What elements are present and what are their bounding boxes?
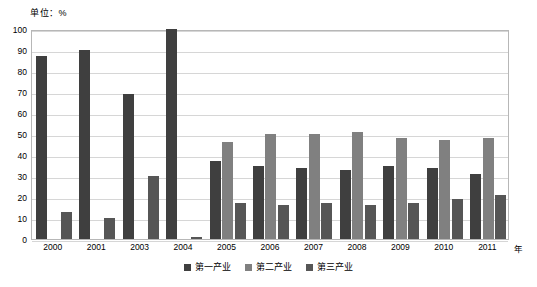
y-axis-tick-label: 10 — [18, 215, 27, 223]
y-axis-tick-label: 20 — [18, 194, 27, 202]
bar — [210, 161, 221, 239]
legend: 第一产业第二产业第三产业 — [0, 263, 537, 272]
bar — [123, 94, 134, 239]
bar — [79, 50, 90, 239]
x-axis-tick-label: 2010 — [434, 242, 453, 252]
x-axis-tick-label: 2000 — [43, 242, 62, 252]
plot-area — [31, 30, 509, 240]
bar — [408, 203, 419, 239]
bar — [104, 218, 115, 239]
bar — [439, 140, 450, 239]
bar-group — [249, 31, 292, 239]
bar — [191, 237, 202, 239]
y-axis-tick-label: 60 — [18, 110, 27, 118]
y-axis-labels: 0102030405060708090100 — [0, 30, 31, 240]
legend-label: 第三产业 — [317, 263, 353, 272]
x-axis-tick-label: 2008 — [347, 242, 366, 252]
y-axis-tick-label: 50 — [18, 131, 27, 139]
bar-group — [293, 31, 336, 239]
legend-swatch-icon — [245, 264, 252, 271]
bar-series-group — [32, 31, 508, 239]
bar-group — [423, 31, 466, 239]
bar — [352, 132, 363, 239]
bar-group — [467, 31, 510, 239]
bar-group — [75, 31, 118, 239]
bar-group — [162, 31, 205, 239]
bar — [222, 142, 233, 239]
y-axis-tick-label: 40 — [18, 152, 27, 160]
bar — [235, 203, 246, 239]
legend-label: 第一产业 — [195, 263, 231, 272]
y-axis-tick-label: 80 — [18, 68, 27, 76]
bar — [427, 168, 438, 239]
bar — [495, 195, 506, 239]
bar — [296, 168, 307, 239]
bar — [309, 134, 320, 239]
legend-item[interactable]: 第一产业 — [184, 263, 231, 272]
x-axis-tick-label: 2001 — [87, 242, 106, 252]
bar — [148, 176, 159, 239]
bar — [36, 56, 47, 239]
bar-group — [32, 31, 75, 239]
x-axis-tick-label: 2006 — [261, 242, 280, 252]
chart-container: 单位：% 0102030405060708090100 200020012003… — [0, 0, 537, 287]
x-axis-tick-label: 2011 — [478, 242, 496, 252]
bar-group — [119, 31, 162, 239]
bar — [265, 134, 276, 239]
y-axis-tick-label: 30 — [18, 173, 27, 181]
legend-item[interactable]: 第二产业 — [245, 263, 292, 272]
bar — [396, 138, 407, 239]
legend-label: 第二产业 — [256, 263, 292, 272]
bar — [383, 166, 394, 240]
legend-swatch-icon — [306, 264, 313, 271]
x-axis-tick-label: 2004 — [174, 242, 193, 252]
x-axis-tick-label: 2003 — [130, 242, 149, 252]
x-axis-tick-label: 2005 — [217, 242, 236, 252]
legend-swatch-icon — [184, 264, 191, 271]
legend-item[interactable]: 第三产业 — [306, 263, 353, 272]
bar — [365, 205, 376, 239]
bar — [483, 138, 494, 239]
y-axis-tick-label: 90 — [18, 47, 27, 55]
bar — [340, 170, 351, 239]
bar-group — [336, 31, 379, 239]
unit-label: 单位：% — [30, 6, 67, 19]
bar-group — [380, 31, 423, 239]
bar — [61, 212, 72, 239]
y-axis-tick-label: 0 — [22, 236, 27, 244]
bar — [321, 203, 332, 239]
bar-group — [206, 31, 249, 239]
bar — [452, 199, 463, 239]
bar — [278, 205, 289, 239]
x-axis-tick-label: 2007 — [304, 242, 323, 252]
x-axis-title: 年 — [514, 242, 523, 254]
y-axis-tick-label: 70 — [18, 89, 27, 97]
x-axis-tick-label: 2009 — [391, 242, 410, 252]
bar — [253, 166, 264, 240]
bar — [470, 174, 481, 239]
y-axis-tick-label: 100 — [13, 26, 27, 34]
x-axis-labels: 2000200120032004200520062007200820092010… — [31, 242, 509, 256]
bar — [166, 29, 177, 239]
